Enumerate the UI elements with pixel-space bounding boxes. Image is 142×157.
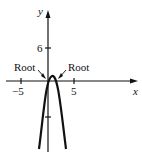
root-label-right: Root	[68, 61, 89, 73]
x-label: x	[132, 85, 138, 97]
tick-label-neg5: −5	[12, 85, 24, 97]
y-label: y	[37, 5, 43, 17]
tick-label-5: 5	[71, 85, 77, 97]
x-arrow-icon	[130, 79, 138, 84]
parabola-chart: y x 6 −5 5 Root Root	[0, 0, 142, 157]
tick-label-6: 6	[37, 42, 43, 54]
root-label-left: Root	[14, 61, 35, 73]
y-arrow-icon	[46, 10, 51, 18]
parabola-curve	[39, 76, 66, 149]
